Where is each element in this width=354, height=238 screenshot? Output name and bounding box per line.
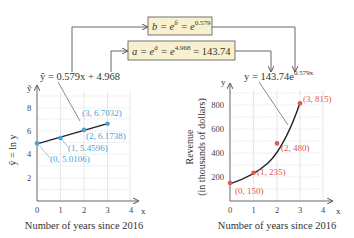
left-point-label: (2, 6.1738)	[86, 131, 126, 141]
left-y-axis-title: ỹ = ln y	[7, 135, 18, 166]
right-point	[298, 101, 303, 106]
diagram-canvas: b = eb̃ = e0.579 a = eã = e4.968 = 143.…	[0, 0, 354, 238]
arrow-from-a-box	[235, 51, 271, 71]
a-formula-box: a = eã = e4.968 = 143.74	[128, 41, 235, 60]
left-x-axis-letter: x	[141, 206, 146, 216]
a-box-lhs: a = e	[132, 46, 155, 57]
left-point	[58, 136, 63, 141]
left-x-tick: 3	[105, 205, 109, 215]
left-y-tick: 6	[27, 126, 31, 136]
right-x-tick: 1	[251, 205, 255, 215]
left-x-tick: 0	[35, 205, 39, 215]
left-y-tick: 4	[27, 149, 32, 159]
a-box-sup2: 4.968	[175, 44, 191, 52]
b-formula-box: b = eb̃ = e0.579	[148, 17, 212, 35]
b-box-mid: = e	[178, 21, 195, 32]
a-box-rhs: = 143.74	[191, 46, 232, 57]
b-box-sup2: 0.579	[195, 19, 211, 27]
left-equation-pointer	[58, 82, 80, 121]
left-y-tick: 2	[27, 173, 31, 183]
right-x-tick: 3	[298, 205, 302, 215]
left-point	[35, 141, 40, 146]
left-point	[105, 122, 110, 127]
right-point-label: (0, 150)	[235, 186, 264, 196]
right-x-axis-letter: x	[336, 206, 341, 216]
a-box-mid: = e	[158, 46, 175, 57]
right-y-tick: 200	[211, 172, 224, 182]
right-chart: y = 143.74e0.579x y x 200 400 6	[184, 69, 341, 231]
right-x-tick: 0	[228, 205, 232, 215]
right-x-tick: 4	[321, 205, 326, 215]
right-y-axis-letter: y	[221, 77, 226, 87]
left-x-tick: 2	[82, 205, 86, 215]
left-x-tick: 4	[129, 205, 134, 215]
b-box-lhs: b = e	[152, 21, 175, 32]
left-point-label: (1, 5.4596)	[68, 143, 108, 153]
right-y-axis-title-line1: Revenue	[184, 129, 195, 165]
right-y-axis-title-line2: (in thousands of dollars)	[196, 98, 208, 196]
right-point	[228, 181, 233, 186]
right-point-label: (3, 815)	[303, 94, 332, 104]
right-equation-base: y = 143.74e	[244, 71, 294, 82]
left-x-tick: 1	[58, 205, 62, 215]
right-point-label: (2, 480)	[281, 143, 310, 153]
left-y-tick: 8	[27, 103, 31, 113]
right-y-tick: 600	[211, 124, 224, 134]
left-point-label: (0, 5.0106)	[50, 154, 90, 164]
left-x-axis-title: Number of years since 2016	[25, 220, 143, 231]
right-equation-pointer	[259, 82, 288, 125]
left-chart-equation: ỹ = 0.579x + 4.968	[40, 71, 120, 82]
right-y-tick: 400	[211, 148, 224, 158]
left-chart: ỹ = 0.579x + 4.968 ỹ x 2 4 6 8	[7, 71, 146, 231]
right-point-label: (1, 235)	[257, 167, 286, 177]
right-x-tick: 2	[275, 205, 279, 215]
right-point	[251, 171, 256, 176]
right-x-axis-title: Number of years since 2016	[218, 220, 336, 231]
left-point-label: (3, 6.7032)	[82, 108, 122, 118]
arrow-to-a-box	[111, 51, 127, 72]
right-y-tick: 800	[211, 100, 224, 110]
right-chart-equation: y = 143.74e0.579x	[244, 69, 314, 82]
right-equation-exponent: 0.579x	[294, 69, 314, 77]
right-point	[275, 141, 280, 146]
left-y-axis-letter: ỹ	[27, 83, 32, 93]
